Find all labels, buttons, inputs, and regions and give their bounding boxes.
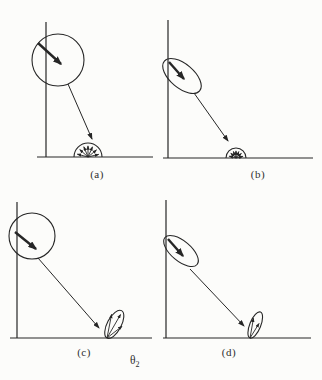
angular-distribution-fan <box>226 148 246 158</box>
incident-distribution-ellipse <box>161 230 204 272</box>
scattering-arrow <box>68 84 92 139</box>
axes <box>163 20 313 158</box>
angular-distribution-lobe <box>245 310 266 340</box>
scattering-arrow <box>194 93 228 141</box>
incident-distribution-circle <box>9 213 55 259</box>
lobe-outline <box>245 310 266 340</box>
scattering-arrow <box>190 269 244 326</box>
incident-arrow <box>168 239 183 256</box>
axes <box>37 22 153 157</box>
incident-arrow <box>38 43 61 64</box>
theta2-caption: θ2 <box>130 354 140 369</box>
incident-arrow <box>169 62 184 79</box>
panel-b-diagram <box>161 0 322 190</box>
scattering-arrow <box>38 258 99 328</box>
axes <box>163 200 311 338</box>
angular-distribution-fan <box>74 143 102 157</box>
panel-a <box>0 0 161 190</box>
figure-page: (a) (b) (c) (d) θ2 <box>0 0 322 380</box>
lobe-outline <box>101 307 128 341</box>
panel-d <box>161 190 322 380</box>
axes <box>10 202 152 338</box>
theta-subscript: 2 <box>136 360 140 369</box>
angular-distribution-lobe <box>101 307 128 341</box>
panel-d-label: (d) <box>222 346 236 358</box>
panel-b-label: (b) <box>251 168 265 180</box>
panel-a-diagram <box>0 0 161 190</box>
panel-c-label: (c) <box>77 346 91 358</box>
panel-b <box>161 0 322 190</box>
panel-d-diagram <box>161 190 322 380</box>
incident-arrow <box>15 232 36 249</box>
panel-a-label: (a) <box>90 168 104 180</box>
